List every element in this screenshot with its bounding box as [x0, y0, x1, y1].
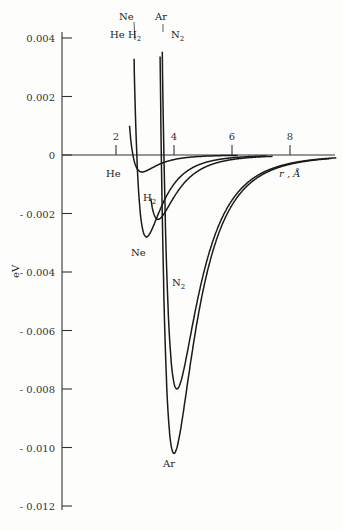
curve-ar [160, 57, 331, 454]
curve-n2 [162, 52, 336, 389]
label-ne: Ne [131, 247, 146, 258]
curve-he [130, 126, 238, 172]
label-n2-top: N2 [171, 29, 184, 43]
y-tick-label: - 0.004 [20, 267, 55, 278]
label-he-top: He [110, 29, 125, 40]
label-h2-top: H2 [128, 29, 141, 43]
label-he: He [106, 168, 121, 179]
y-tick-label: - 0.006 [20, 326, 55, 337]
curve-ne [134, 59, 267, 237]
label-ar: Ar [162, 458, 175, 469]
x-tick-label: 8 [287, 131, 293, 142]
curve-h2 [151, 156, 273, 219]
label-ar-top: Ar [154, 11, 167, 22]
y-axis-label: eV [10, 264, 21, 278]
x-ticks: 2468 [113, 131, 293, 155]
y-tick-label: 0.002 [26, 92, 55, 103]
x-tick-label: 2 [113, 131, 119, 142]
label-h2: H2 [143, 192, 156, 206]
y-tick-label: - 0.008 [20, 384, 55, 395]
curves [130, 52, 337, 454]
x-tick-label: 4 [171, 131, 177, 142]
y-tick-label: 0 [49, 150, 55, 161]
y-tick-label: - 0.012 [20, 501, 55, 512]
label-ne-top: Ne [119, 11, 134, 22]
x-axis-label: r , Å [279, 168, 301, 179]
y-ticks: 0.0040.0020- 0.002- 0.004- 0.006- 0.008-… [20, 33, 72, 512]
y-tick-label: 0.004 [26, 33, 55, 44]
x-tick-label: 6 [229, 131, 235, 142]
label-n2: N2 [172, 277, 185, 291]
y-tick-label: - 0.002 [20, 209, 55, 220]
y-tick-label: - 0.010 [20, 443, 55, 454]
potential-energy-chart: 0.0040.0020- 0.002- 0.004- 0.006- 0.008-… [0, 0, 343, 531]
